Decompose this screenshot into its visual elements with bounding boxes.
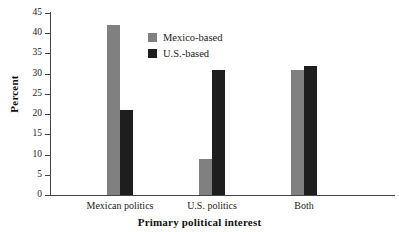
bar-chart-figure: Percent 454035302520151050 Mexican polit… xyxy=(0,0,399,232)
y-tick-label: 25 xyxy=(16,89,42,99)
legend-label-mexico-based: Mexico-based xyxy=(163,32,222,43)
y-tick-label: 0 xyxy=(16,190,42,200)
y-tick-label: 40 xyxy=(16,28,42,38)
y-tick-label: 15 xyxy=(16,129,42,139)
y-tick-mark xyxy=(45,195,50,196)
bar-mexican-politics-mexico-based xyxy=(107,25,120,195)
x-axis-line xyxy=(50,195,395,196)
x-axis-title: Primary political interest xyxy=(0,216,399,228)
bar-u-s-politics-mexico-based xyxy=(199,159,212,195)
y-tick-label: 10 xyxy=(16,150,42,160)
bar-u-s-politics-u-s-based xyxy=(212,70,225,195)
legend-item-us-based: U.S.-based xyxy=(148,46,222,60)
y-tick-label: 35 xyxy=(16,48,42,58)
legend-item-mexico-based: Mexico-based xyxy=(148,30,222,44)
bar-mexican-politics-u-s-based xyxy=(120,110,133,195)
bars-layer xyxy=(50,13,395,195)
legend-label-us-based: U.S.-based xyxy=(163,48,209,59)
us-based-swatch-icon xyxy=(148,49,157,58)
y-tick-label: 45 xyxy=(16,8,42,18)
y-tick-label: 20 xyxy=(16,109,42,119)
mexico-based-swatch-icon xyxy=(148,33,157,42)
y-tick-label: 5 xyxy=(16,170,42,180)
chart-legend: Mexico-based U.S.-based xyxy=(148,30,222,62)
y-tick-label: 30 xyxy=(16,69,42,79)
x-axis-label-both: Both xyxy=(244,200,364,211)
bar-both-mexico-based xyxy=(291,70,304,195)
bar-both-u-s-based xyxy=(304,66,317,195)
